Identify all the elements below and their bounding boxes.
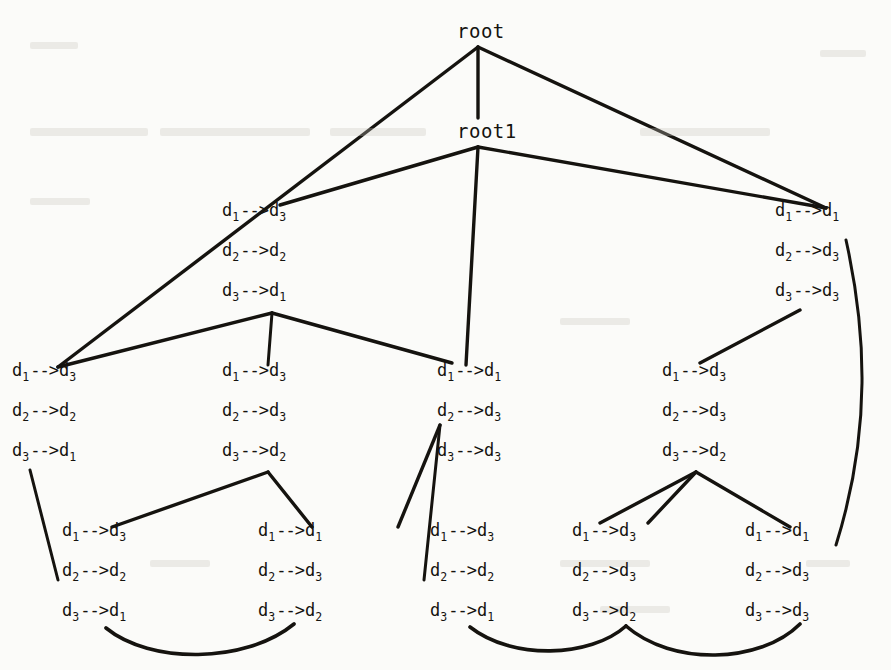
mapping-target: d3 [709, 400, 726, 420]
mapping-target: d2 [269, 240, 286, 260]
mapping-target: d3 [619, 520, 636, 540]
mapping-target: d2 [709, 440, 726, 460]
mapping-arrow-icon: --> [792, 240, 822, 260]
mapping-source: d3 [745, 600, 762, 620]
mapping-line: d3-->d3 [437, 442, 501, 482]
mapping-target-index: 2 [279, 250, 286, 264]
mapping-target-index: 1 [802, 530, 809, 544]
mapping-target-index: 1 [69, 450, 76, 464]
mapping-source: d2 [12, 400, 29, 420]
mapping-target: d2 [305, 600, 322, 620]
mapping-target: d1 [792, 520, 809, 540]
mapping-line: d1-->d1 [745, 522, 809, 562]
mapping-target: d2 [109, 560, 126, 580]
mapping-target-index: 1 [119, 610, 126, 624]
mapping-target-index: 3 [719, 410, 726, 424]
mapping-source: d3 [258, 600, 275, 620]
mapping-target: d2 [269, 440, 286, 460]
mapping-target-index: 3 [494, 450, 501, 464]
mapping-target-index: 1 [315, 530, 322, 544]
mapping-target-index: 3 [315, 570, 322, 584]
mapping-source: d2 [662, 400, 679, 420]
mapping-target: d3 [269, 200, 286, 220]
node-root: root [457, 22, 505, 41]
mapping-line: d2-->d3 [437, 402, 501, 442]
mapping-arrow-icon: --> [762, 600, 792, 620]
mapping-line: d2-->d3 [258, 562, 322, 602]
mapping-target: d3 [477, 520, 494, 540]
mapping-target: d1 [477, 600, 494, 620]
mapping-arrow-icon: --> [679, 400, 709, 420]
mapping-target-index: 1 [832, 210, 839, 224]
node-map: d1-->d1d2-->d3d3-->d3 [437, 362, 501, 482]
mapping-arrow-icon: --> [29, 440, 59, 460]
mapping-line: d3-->d2 [258, 602, 322, 642]
mapping-target: d3 [269, 360, 286, 380]
mapping-target-index: 3 [832, 250, 839, 264]
node-root1: root1 [457, 122, 517, 141]
node-map: d1-->d3d2-->d2d3-->d1 [222, 202, 286, 322]
mapping-arrow-icon: --> [679, 440, 709, 460]
mapping-source: d1 [572, 520, 589, 540]
mapping-line: d1-->d3 [62, 522, 126, 562]
edge-root1-right [478, 147, 826, 208]
mapping-source: d2 [430, 560, 447, 580]
mapping-source: d3 [430, 600, 447, 620]
mapping-arrow-icon: --> [79, 560, 109, 580]
edge-l3a-l4a [30, 470, 58, 580]
mapping-target: d1 [484, 360, 501, 380]
mapping-line: d1-->d3 [430, 522, 494, 562]
mapping-target: d3 [619, 560, 636, 580]
mapping-arrow-icon: --> [762, 560, 792, 580]
mapping-target: d3 [484, 400, 501, 420]
mapping-source: d3 [12, 440, 29, 460]
node-map: d1-->d3d2-->d2d3-->d1 [62, 522, 126, 642]
mapping-line: d1-->d3 [572, 522, 636, 562]
mapping-source: d1 [430, 520, 447, 540]
mapping-line: d2-->d3 [775, 242, 839, 282]
mapping-target: d3 [305, 560, 322, 580]
mapping-source: d2 [572, 560, 589, 580]
mapping-arrow-icon: --> [447, 520, 477, 540]
mapping-target-index: 3 [832, 290, 839, 304]
mapping-source: d1 [437, 360, 454, 380]
node-map: d1-->d3d2-->d3d3-->d2 [222, 362, 286, 482]
mapping-line: d1-->d1 [437, 362, 501, 402]
mapping-target-index: 3 [719, 370, 726, 384]
node-map: d1-->d1d2-->d3d3-->d2 [258, 522, 322, 642]
mapping-source: d1 [12, 360, 29, 380]
mapping-arrow-icon: --> [589, 600, 619, 620]
mapping-target: d3 [59, 360, 76, 380]
mapping-target: d1 [59, 440, 76, 460]
mapping-line: d1-->d3 [222, 362, 286, 402]
node-root1-label: root1 [457, 120, 517, 142]
mapping-arrow-icon: --> [239, 440, 269, 460]
mapping-target-index: 2 [279, 450, 286, 464]
mapping-arrow-icon: --> [29, 360, 59, 380]
mapping-target: d3 [109, 520, 126, 540]
node-map: d1-->d3d2-->d3d3-->d2 [662, 362, 726, 482]
mapping-target: d3 [822, 280, 839, 300]
mapping-target: d1 [109, 600, 126, 620]
mapping-arrow-icon: --> [239, 360, 269, 380]
diagram-canvas: root root1 d1-->d3d2-->d2d3-->d1 d1-->d1… [0, 0, 891, 670]
mapping-arrow-icon: --> [792, 200, 822, 220]
mapping-target-index: 1 [494, 370, 501, 384]
mapping-arrow-icon: --> [589, 560, 619, 580]
mapping-target-index: 1 [279, 290, 286, 304]
mapping-source: d3 [62, 600, 79, 620]
mapping-arrow-icon: --> [79, 600, 109, 620]
mapping-source: d2 [775, 240, 792, 260]
node-map: d1-->d1d2-->d3d3-->d3 [745, 522, 809, 642]
mapping-arrow-icon: --> [239, 240, 269, 260]
node-map: d1-->d1d2-->d3d3-->d3 [775, 202, 839, 322]
edge-root-right [478, 47, 826, 208]
mapping-target-index: 3 [279, 410, 286, 424]
mapping-line: d3-->d1 [430, 602, 494, 642]
mapping-target-index: 3 [494, 410, 501, 424]
mapping-target: d2 [477, 560, 494, 580]
mapping-target-index: 3 [629, 570, 636, 584]
mapping-line: d1-->d3 [12, 362, 76, 402]
mapping-source: d3 [662, 440, 679, 460]
mapping-line: d2-->d2 [12, 402, 76, 442]
